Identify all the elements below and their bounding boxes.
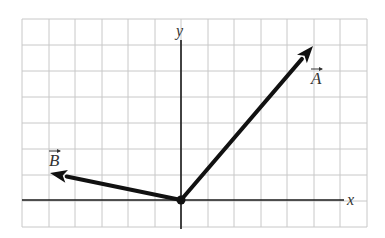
vector-diagram: xyAB [0,0,385,238]
y-axis-label: y [174,22,184,40]
origin-point [177,196,186,205]
vector-a-shaft [181,59,302,200]
grid [22,19,367,227]
x-axis-label: x [346,191,354,208]
vector-b-label: B [49,151,60,170]
vector-a-label: A [310,69,322,88]
vector-b-shaft [67,176,181,200]
